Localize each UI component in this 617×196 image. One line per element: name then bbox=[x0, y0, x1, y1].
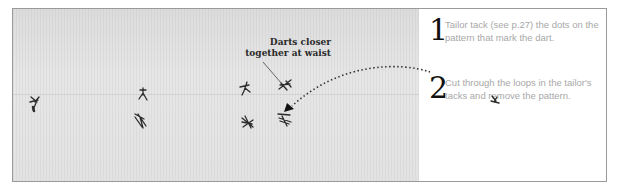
annotation-line-1: Darts closer bbox=[231, 37, 331, 48]
step-text: Cut through the loops in the tailor's ta… bbox=[445, 77, 604, 102]
steps-panel: 1 Tailor tack (see p.27) the dots on the… bbox=[419, 9, 608, 183]
annotation-line-2: together at waist bbox=[231, 48, 331, 59]
annotation-label: Darts closer together at waist bbox=[231, 37, 331, 59]
instruction-figure: Darts closer together at waist 1 Tailor … bbox=[12, 8, 607, 182]
fold-line bbox=[13, 94, 419, 95]
fabric-photo: Darts closer together at waist bbox=[13, 9, 419, 181]
step-text: Tailor tack (see p.27) the dots on the p… bbox=[445, 19, 604, 44]
